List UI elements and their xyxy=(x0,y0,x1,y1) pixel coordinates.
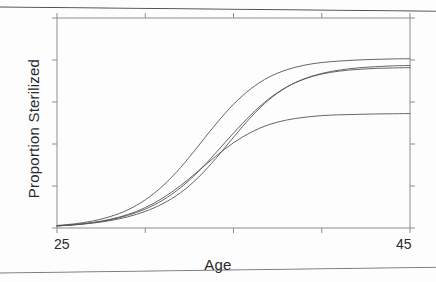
figure-container: Proportion Sterilized Age 25 45 xyxy=(0,0,436,282)
curve-line-1 xyxy=(57,59,410,226)
y-axis-title: Proportion Sterilized xyxy=(25,44,42,214)
plot-box-frame xyxy=(57,18,410,228)
data-curves xyxy=(57,59,410,226)
x-axis-title: Age xyxy=(0,256,436,273)
curve-line-4 xyxy=(57,114,410,226)
x-tick-label-max: 45 xyxy=(396,236,412,252)
curve-line-2 xyxy=(57,65,410,225)
axis-ticks xyxy=(52,13,415,233)
curve-line-3 xyxy=(57,68,410,226)
x-tick-label-min: 25 xyxy=(54,236,70,252)
axis-frame xyxy=(57,18,410,228)
